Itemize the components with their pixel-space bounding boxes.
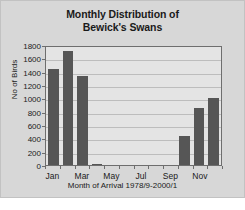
x-tick-mark	[134, 166, 135, 169]
bar	[92, 164, 102, 165]
bar	[48, 69, 58, 165]
x-tick-label: Jan	[46, 171, 60, 181]
plot-area	[45, 46, 222, 166]
bar-slot	[177, 47, 192, 165]
x-tick-mark	[89, 166, 90, 169]
y-tick-label: 1600	[0, 55, 41, 64]
y-tick-label: 0	[0, 162, 41, 171]
y-tick-label: 200	[0, 148, 41, 157]
bar-slot	[75, 47, 90, 165]
y-tick-label: 1400	[0, 68, 41, 77]
y-tick-label: 1200	[0, 82, 41, 91]
bar	[194, 108, 204, 165]
chart-figure: Monthly Distribution of Bewick's Swans N…	[0, 0, 245, 198]
bar-slot	[90, 47, 105, 165]
bar-series	[46, 47, 221, 165]
x-tick-label: Mar	[75, 171, 90, 181]
chart-title-line-1: Monthly Distribution of	[0, 8, 245, 21]
chart-title-line-2: Bewick's Swans	[0, 21, 245, 34]
x-tick-mark	[148, 166, 149, 169]
bar-slot	[163, 47, 178, 165]
x-tick-label: May	[103, 171, 119, 181]
y-tick-label: 1800	[0, 42, 41, 51]
x-tick-label: Jul	[135, 171, 146, 181]
bar-slot	[46, 47, 61, 165]
x-tick-mark	[207, 166, 208, 169]
bar-slot	[192, 47, 207, 165]
x-tick-mark	[45, 166, 46, 169]
y-tick-label: 1000	[0, 95, 41, 104]
x-tick-mark	[222, 166, 223, 169]
chart-title: Monthly Distribution of Bewick's Swans	[0, 8, 245, 34]
bar-slot	[206, 47, 221, 165]
bar-slot	[104, 47, 119, 165]
x-tick-label: Nov	[192, 171, 207, 181]
bar	[179, 136, 189, 165]
bar-slot	[61, 47, 76, 165]
bar	[63, 51, 73, 165]
x-tick-mark	[163, 166, 164, 169]
bar	[208, 98, 218, 165]
bar	[77, 76, 87, 165]
x-tick-mark	[60, 166, 61, 169]
y-tick-label: 400	[0, 135, 41, 144]
x-tick-mark	[119, 166, 120, 169]
x-tick-mark	[104, 166, 105, 169]
y-tick-label: 600	[0, 122, 41, 131]
y-tick-label: 800	[0, 108, 41, 117]
bar-slot	[119, 47, 134, 165]
bar-slot	[133, 47, 148, 165]
x-tick-mark	[75, 166, 76, 169]
x-tick-label: Sep	[163, 171, 178, 181]
bar-slot	[148, 47, 163, 165]
x-axis-label: Month of Arrival 1978/9-2000/1	[0, 181, 245, 190]
x-tick-mark	[193, 166, 194, 169]
x-tick-mark	[178, 166, 179, 169]
